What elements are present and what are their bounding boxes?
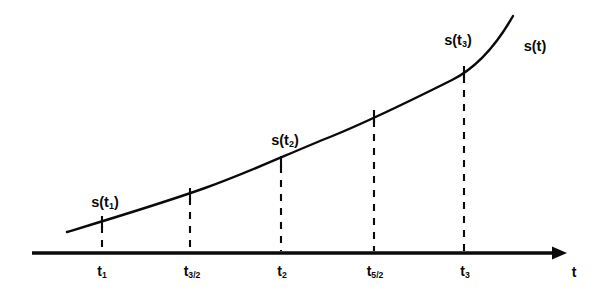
tick-label-t3: t3 <box>460 264 470 280</box>
tick-label-t2: t2 <box>277 264 287 280</box>
tick-label-t3-text: t3 <box>460 263 470 279</box>
curve-name-label: s(t) <box>524 39 547 54</box>
tick-label-t3-2: t3/2 <box>184 264 201 280</box>
curve-name-text: s(t) <box>524 38 547 54</box>
tick-label-t5-2: t5/2 <box>367 264 384 280</box>
curve-value-label-t2-text: s(t2) <box>271 132 299 148</box>
tick-label-t1-text: t1 <box>97 263 107 279</box>
x-axis-label-text: t <box>572 264 577 280</box>
sample-droplines <box>102 66 464 251</box>
x-axis-arrowhead <box>552 246 567 259</box>
tick-label-t3-2-text: t3/2 <box>184 263 201 279</box>
tick-label-t2-text: t2 <box>277 263 287 279</box>
tick-label-t1: t1 <box>97 264 107 280</box>
x-axis-label: t <box>572 265 577 279</box>
curve-value-label-t2: s(t2) <box>271 133 299 149</box>
diagram-canvas <box>0 0 599 302</box>
tick-label-t5-2-text: t5/2 <box>367 263 384 279</box>
curve-value-label-t3-text: s(t3) <box>444 32 472 48</box>
curve-value-label-t3: s(t3) <box>444 33 472 49</box>
curve-value-label-t1-text: s(t1) <box>91 194 119 210</box>
curve-value-label-t1: s(t1) <box>91 195 119 211</box>
position-time-diagram: s(t1) s(t2) s(t3) s(t) t1 t3/2 t2 t5/2 t… <box>0 0 599 302</box>
